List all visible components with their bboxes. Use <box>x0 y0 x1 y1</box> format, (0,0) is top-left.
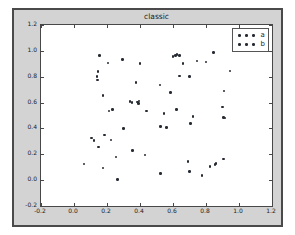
x-tick-label: 0.2 <box>94 207 118 214</box>
x-tick-mark <box>272 203 273 206</box>
scatter-point <box>187 160 190 163</box>
legend-marker-dot <box>238 43 241 46</box>
scatter-point <box>182 62 185 65</box>
scatter-point <box>222 158 225 161</box>
y-tick-label: 0.8 <box>17 72 37 79</box>
legend-marker-a <box>236 31 258 40</box>
scatter-point <box>229 70 232 73</box>
x-tick-label: 0.0 <box>61 207 85 214</box>
y-tick-label: 0.0 <box>17 175 37 182</box>
scatter-point <box>135 81 138 84</box>
y-tick-mark <box>269 77 272 78</box>
scatter-point <box>108 110 111 113</box>
chart-legend: a b <box>232 28 269 52</box>
scatter-point <box>178 54 181 57</box>
legend-label-a: a <box>258 31 265 40</box>
y-tick-mark <box>41 154 44 155</box>
scatter-point <box>159 84 162 87</box>
scatter-point <box>163 112 166 115</box>
y-tick-mark <box>269 180 272 181</box>
scatter-point <box>159 172 162 175</box>
legend-item-a: a <box>236 31 265 40</box>
x-tick-mark <box>239 203 240 206</box>
legend-item-b: b <box>236 40 265 49</box>
scatter-point <box>201 174 204 177</box>
y-tick-mark <box>269 128 272 129</box>
y-tick-mark <box>41 77 44 78</box>
scatter-point <box>93 139 96 142</box>
scatter-point <box>98 54 101 57</box>
scatter-point <box>223 90 226 93</box>
x-tick-label: 1.0 <box>226 207 250 214</box>
legend-marker-dot <box>238 34 241 37</box>
y-tick-label: -0.2 <box>17 201 37 208</box>
x-tick-mark <box>173 203 174 206</box>
legend-label-b: b <box>258 40 265 49</box>
scatter-point <box>188 170 191 173</box>
scatter-point <box>209 165 212 168</box>
scatter-point <box>131 149 134 152</box>
y-tick-mark <box>269 25 272 26</box>
scatter-point <box>145 110 148 113</box>
x-tick-label: 0.4 <box>127 207 151 214</box>
matplotlib-figure: classic a b -0.20.00.20.40.60.81.01.2-0.… <box>12 8 283 227</box>
scatter-point <box>116 178 119 181</box>
x-tick-label: -0.2 <box>28 207 52 214</box>
scatter-point <box>192 115 195 118</box>
scatter-point <box>96 75 99 78</box>
scatter-point <box>103 134 106 137</box>
scatter-point <box>97 70 100 73</box>
x-tick-mark <box>206 25 207 28</box>
y-tick-mark <box>41 128 44 129</box>
scatter-point <box>169 91 172 94</box>
scatter-point <box>122 127 125 130</box>
y-tick-mark <box>269 103 272 104</box>
scatter-point <box>97 146 100 149</box>
scatter-point <box>189 122 192 125</box>
scatter-point <box>96 79 99 82</box>
x-tick-mark <box>107 25 108 28</box>
legend-marker-dot <box>245 34 248 37</box>
x-tick-mark <box>107 203 108 206</box>
legend-marker-dot <box>245 43 248 46</box>
y-tick-label: 0.2 <box>17 149 37 156</box>
scatter-point <box>205 61 208 64</box>
y-tick-mark <box>269 51 272 52</box>
scatter-point <box>138 100 141 103</box>
y-tick-label: 0.4 <box>17 123 37 130</box>
scatter-point <box>144 154 147 157</box>
scatter-point <box>121 58 124 61</box>
y-tick-mark <box>41 103 44 104</box>
x-tick-mark <box>140 203 141 206</box>
scatter-point <box>110 139 113 142</box>
plot-axes-area: a b <box>40 24 273 207</box>
scatter-data-layer <box>41 25 272 206</box>
y-tick-label: 0.6 <box>17 98 37 105</box>
scatter-point <box>224 117 227 120</box>
y-tick-mark <box>41 51 44 52</box>
x-tick-mark <box>272 25 273 28</box>
x-tick-mark <box>140 25 141 28</box>
x-tick-label: 1.2 <box>259 207 283 214</box>
x-tick-mark <box>206 203 207 206</box>
page-title: classic <box>40 12 273 22</box>
scatter-point <box>188 75 191 78</box>
scatter-point <box>115 156 118 159</box>
scatter-point <box>215 162 218 165</box>
x-tick-mark <box>173 25 174 28</box>
scatter-point <box>131 101 134 104</box>
scatter-point <box>212 51 215 54</box>
x-tick-mark <box>74 203 75 206</box>
y-tick-mark <box>41 25 44 26</box>
scatter-point <box>221 106 224 109</box>
scatter-point <box>111 108 114 111</box>
scatter-point <box>102 94 105 97</box>
y-tick-label: 1.0 <box>17 46 37 53</box>
scatter-point <box>178 75 181 78</box>
scatter-point <box>137 102 140 105</box>
scatter-point <box>139 62 142 65</box>
scatter-point <box>165 126 168 129</box>
scatter-point <box>175 108 178 111</box>
legend-marker-dot <box>252 34 255 37</box>
y-tick-label: 1.2 <box>17 20 37 27</box>
